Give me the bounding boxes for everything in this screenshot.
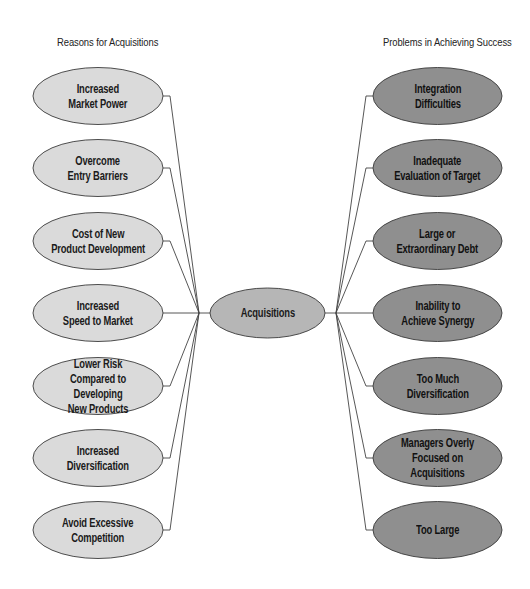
center-node-label: Acquisitions — [240, 306, 294, 321]
right-node-inability-synergy: Inability to Achieve Synergy — [373, 285, 502, 342]
left-node-label: Increased Diversification — [67, 444, 129, 474]
right-connectors — [325, 96, 373, 530]
right-node-managers-overly-focused: Managers Overly Focused on Acquisitions — [373, 430, 502, 487]
left-node-increased-market-power: Increased Market Power — [33, 68, 163, 125]
left-node-label: Increased Speed to Market — [63, 299, 133, 329]
left-node-avoid-excessive-competition: Avoid Excessive Competition — [33, 502, 163, 559]
left-node-label: Cost of New Product Development — [51, 227, 145, 257]
center-node-acquisitions: Acquisitions — [210, 288, 325, 338]
left-node-label: Overcome Entry Barriers — [68, 154, 128, 184]
right-node-label: Too Much Diversification — [406, 372, 468, 402]
left-node-increased-speed-to-market: Increased Speed to Market — [33, 285, 163, 342]
right-node-inadequate-evaluation: Inadequate Evaluation of Target — [373, 140, 502, 197]
right-node-label: Managers Overly Focused on Acquisitions — [387, 436, 488, 481]
right-node-label: Integration Difficulties — [414, 82, 461, 112]
right-node-too-much-diversification: Too Much Diversification — [373, 358, 502, 415]
left-connectors — [163, 96, 210, 530]
left-node-label: Increased Market Power — [68, 82, 127, 112]
left-node-overcome-entry-barriers: Overcome Entry Barriers — [33, 140, 163, 197]
left-node-lower-risk: Lower Risk Compared to Developing New Pr… — [33, 358, 163, 415]
right-node-too-large: Too Large — [373, 502, 502, 559]
right-node-large-debt: Large or Extraordinary Debt — [373, 213, 502, 270]
right-node-label: Large or Extraordinary Debt — [397, 227, 478, 257]
right-node-label: Inadequate Evaluation of Target — [394, 154, 480, 184]
right-node-label: Inability to Achieve Synergy — [401, 299, 474, 329]
right-node-label: Too Large — [416, 523, 459, 538]
left-node-label: Lower Risk Compared to Developing New Pr… — [47, 357, 148, 417]
left-node-increased-diversification: Increased Diversification — [33, 430, 163, 487]
right-node-integration-difficulties: Integration Difficulties — [373, 68, 502, 125]
left-column-title: Reasons for Acquisitions — [57, 36, 158, 48]
left-node-label: Avoid Excessive Competition — [62, 516, 133, 546]
left-node-cost-of-new-product-development: Cost of New Product Development — [33, 213, 163, 270]
right-column-title: Problems in Achieving Success — [383, 36, 512, 48]
